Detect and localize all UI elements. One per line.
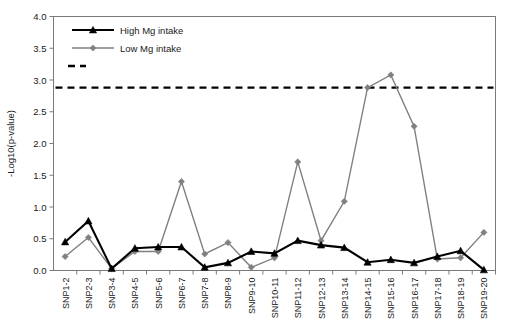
y-tick-label: 3.5: [33, 43, 46, 54]
legend-label-low-mg-intake: Low Mg intake: [120, 43, 181, 54]
y-tick-label: 0.5: [33, 233, 46, 244]
x-tick-label: SNP10-11: [270, 278, 280, 319]
x-tick-label: SNP19-20: [479, 278, 489, 320]
x-tick-label: SNP3-4: [107, 278, 117, 310]
y-tick-label: 0.0: [33, 265, 46, 276]
y-tick-label: 4.0: [33, 11, 46, 22]
plot-frame: [54, 17, 496, 271]
x-tick-label: SNP2-3: [84, 278, 94, 310]
x-tick-label: SNP1-2: [61, 278, 71, 310]
x-tick-label: SNP5-6: [154, 278, 164, 310]
x-tick-label: SNP11-12: [293, 278, 303, 319]
legend-label-high-mg-intake: High Mg intake: [120, 25, 183, 36]
line-chart: 0.00.51.01.52.02.53.03.54.0-Log10(p-valu…: [0, 0, 508, 326]
x-tick-label: SNP17-18: [433, 278, 443, 320]
y-tick-label: 1.0: [33, 202, 46, 213]
y-tick-label: 2.5: [33, 106, 46, 117]
x-tick-label: SNP9-10: [247, 278, 257, 315]
x-tick-label: SNP12-13: [317, 278, 327, 320]
y-tick-label: 1.5: [33, 170, 46, 181]
x-tick-label: SNP16-17: [410, 278, 420, 320]
x-tick-label: SNP7-8: [200, 278, 210, 310]
x-tick-label: SNP13-14: [340, 278, 350, 320]
x-tick-label: SNP6-7: [177, 278, 187, 310]
x-tick-label: SNP8-9: [223, 278, 233, 310]
x-tick-label: SNP4-5: [130, 278, 140, 310]
y-axis-title: -Log10(p-value): [5, 110, 16, 177]
x-tick-label: SNP14-15: [363, 278, 373, 320]
y-tick-label: 3.0: [33, 75, 46, 86]
x-tick-label: SNP15-16: [386, 278, 396, 320]
chart-container: 0.00.51.01.52.02.53.03.54.0-Log10(p-valu…: [0, 0, 508, 326]
x-tick-label: SNP18-19: [456, 278, 466, 320]
y-tick-label: 2.0: [33, 138, 46, 149]
